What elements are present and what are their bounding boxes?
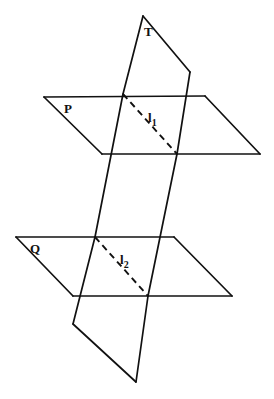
plane-t-left-side-mid <box>95 94 123 237</box>
plane-t-upper-left-edge <box>123 16 143 94</box>
label-line-l1: l1 <box>148 110 157 128</box>
plane-t-upper-right-side <box>177 72 190 154</box>
label-plane-t: T <box>144 24 153 39</box>
label-plane-p: P <box>64 101 72 116</box>
plane-q-right-edge <box>174 237 232 296</box>
label-line-l1-subscript: 1 <box>152 117 157 128</box>
plane-t-right-side-mid <box>148 154 177 296</box>
plane-t-lower-right-side <box>136 296 148 382</box>
plane-q-left-edge <box>16 237 73 296</box>
plane-t-lower-bottom-left-edge <box>73 324 136 382</box>
label-plane-q: Q <box>30 241 40 256</box>
label-line-l2: l2 <box>120 252 129 270</box>
intersection-lines-group <box>95 94 177 296</box>
plane-t-group <box>73 16 190 382</box>
geometry-diagram: T P Q l1 l2 <box>0 0 274 399</box>
plane-t-lower-left-side <box>73 237 95 324</box>
label-line-l2-subscript: 2 <box>124 259 129 270</box>
plane-p-right-edge <box>205 96 260 154</box>
figure-canvas: T P Q l1 l2 <box>0 0 274 399</box>
plane-p-left-edge <box>44 97 102 154</box>
